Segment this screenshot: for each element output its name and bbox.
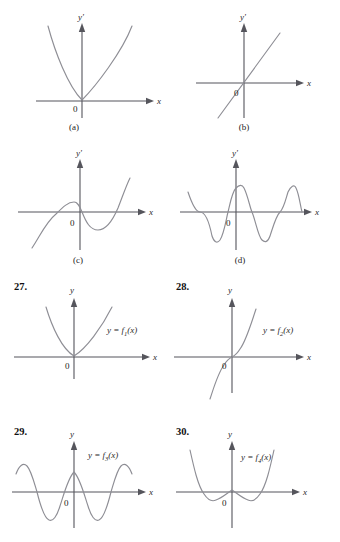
y-axis-arrow-icon <box>229 298 235 307</box>
x-axis-label-29: x <box>148 487 153 497</box>
origin-label-d: 0 <box>226 218 231 228</box>
x-axis-label-28: x <box>306 352 311 362</box>
curve-label-27-prefix: y = f <box>106 325 126 335</box>
graph-c: 0 x y' <box>12 146 182 258</box>
figure-panel-30: 0 x y y = f4(x) <box>168 428 340 540</box>
caption-d: (d) <box>228 255 252 265</box>
y-axis-label-27: y <box>69 285 74 295</box>
curve-parabola <box>48 26 132 100</box>
curve-parabola <box>46 307 112 356</box>
y-axis-label-28: y <box>227 285 232 295</box>
y-axis-arrow-icon <box>79 23 85 32</box>
figure-panel-a: 0 x y' <box>18 8 178 126</box>
curve-label-27-suffix: (x) <box>127 325 137 335</box>
curve-label-29: y = f3(x) <box>87 450 118 462</box>
x-axis-label-27: x <box>152 352 157 362</box>
curve-sinusoid <box>188 185 302 242</box>
curve-label-28-suffix: (x) <box>283 325 293 335</box>
y-axis-label-d: y' <box>231 148 239 158</box>
y-axis-label-b: y' <box>239 12 247 22</box>
x-axis-label-a: x <box>156 96 161 106</box>
curve-label-30: y = f4(x) <box>240 452 271 464</box>
caption-b: (b) <box>232 122 256 132</box>
x-axis-arrow-icon <box>142 354 150 360</box>
origin-label-30: 0 <box>222 498 227 508</box>
figure-panel-28: 0 x y y = f2(x) <box>170 283 340 405</box>
y-axis-arrow-icon <box>71 441 77 450</box>
figure-panel-29: 0 x y y = f3(x) <box>6 428 178 540</box>
curve-label-29-prefix: y = f <box>87 450 107 460</box>
graph-a: 0 x y' <box>18 8 178 126</box>
curve-label-29-suffix: (x) <box>108 450 118 460</box>
figure-panel-d: 0 x y' <box>174 146 340 258</box>
origin-label-c: 0 <box>70 218 75 228</box>
curve-label-30-suffix: (x) <box>261 452 271 462</box>
y-axis-arrow-icon <box>71 298 77 307</box>
figure-panel-b: 0 x y' <box>188 8 338 126</box>
origin-label-a: 0 <box>73 104 78 114</box>
y-axis-arrow-icon <box>233 159 239 168</box>
x-axis-arrow-icon <box>146 98 154 104</box>
x-axis-label-d: x <box>314 207 319 217</box>
origin-label-28: 0 <box>222 361 227 371</box>
y-axis-arrow-icon <box>77 159 83 168</box>
graph-30: 0 x y y = f4(x) <box>168 428 340 540</box>
x-axis-arrow-icon <box>138 209 146 215</box>
x-axis-label-30: x <box>302 487 307 497</box>
origin-label-27: 0 <box>65 361 70 371</box>
curve-label-30-prefix: y = f <box>240 452 260 462</box>
curve-line <box>218 33 280 118</box>
origin-label-b: 0 <box>234 88 239 98</box>
x-axis-arrow-icon <box>296 354 304 360</box>
curve-label-28-prefix: y = f <box>262 325 282 335</box>
worksheet-page: 0 x y' (a) 0 x y' (b) 0 x <box>0 0 340 542</box>
caption-a: (a) <box>62 122 86 132</box>
x-axis-arrow-icon <box>138 489 146 495</box>
y-axis-arrow-icon <box>229 441 235 450</box>
y-axis-label-a: y' <box>77 12 85 22</box>
y-axis-label-c: y' <box>75 148 83 158</box>
x-axis-arrow-icon <box>304 209 312 215</box>
curve-cubic <box>32 178 130 248</box>
graph-b: 0 x y' <box>188 8 338 126</box>
origin-label-29: 0 <box>64 498 69 508</box>
x-axis-label-c: x <box>148 207 153 217</box>
curve-label-27: y = f1(x) <box>106 325 137 337</box>
y-axis-label-30: y <box>227 429 232 439</box>
y-axis-label-29: y <box>69 429 74 439</box>
caption-c: (c) <box>66 255 90 265</box>
y-axis-arrow-icon <box>241 23 247 32</box>
x-axis-arrow-icon <box>296 80 304 86</box>
figure-panel-27: 0 x y y = f1(x) <box>8 283 178 398</box>
graph-27: 0 x y y = f1(x) <box>8 283 178 398</box>
curve-cubic <box>210 309 256 399</box>
figure-panel-c: 0 x y' <box>12 146 182 258</box>
graph-29: 0 x y y = f3(x) <box>6 428 178 540</box>
graph-d: 0 x y' <box>174 146 340 258</box>
graph-28: 0 x y y = f2(x) <box>170 283 340 405</box>
curve-label-28: y = f2(x) <box>262 325 293 337</box>
x-axis-label-b: x <box>306 78 311 88</box>
x-axis-arrow-icon <box>292 489 300 495</box>
